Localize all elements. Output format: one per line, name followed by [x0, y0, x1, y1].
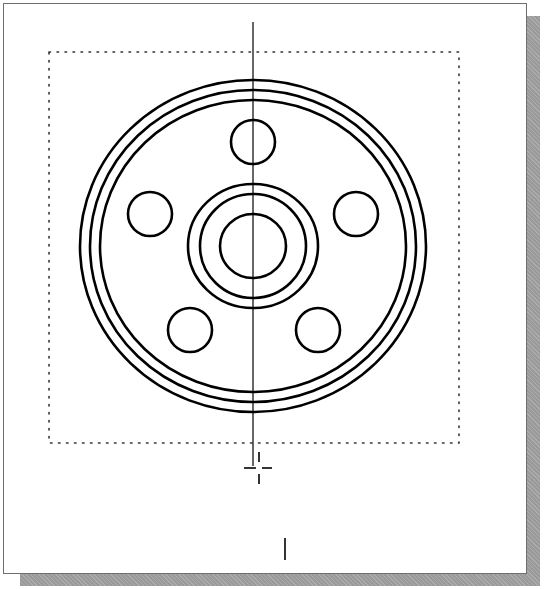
drawing-limits-box: [49, 52, 459, 443]
bolt-hole-bottom-left: [168, 308, 212, 352]
bolt-hole-bottom-right: [296, 308, 340, 352]
bolt-hole-right: [334, 192, 378, 236]
crosshair-cursor-icon: [244, 452, 285, 560]
bolt-hole-left: [128, 192, 172, 236]
limits-dotted-rect: [49, 52, 459, 443]
drawing-canvas[interactable]: [0, 0, 544, 589]
